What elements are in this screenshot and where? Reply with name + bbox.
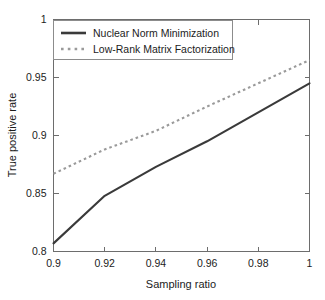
legend-label-nuclear-norm-minimization: Nuclear Norm Minimization <box>93 27 219 39</box>
y-tick-label: 1 <box>41 13 47 25</box>
plot-canvas: 0.80.850.90.951 0.90.920.940.960.981 Nuc… <box>0 0 325 300</box>
series-line-nuclear-norm-minimization <box>54 83 310 243</box>
x-tick-label: 0.96 <box>197 257 218 269</box>
x-tick-label: 0.9 <box>46 257 61 269</box>
y-tick-label: 0.9 <box>32 129 47 141</box>
x-axis-tick-labels: 0.90.920.940.960.981 <box>46 257 312 269</box>
y-tick-label: 0.8 <box>32 245 47 257</box>
legend-label-low-rank-matrix-factorization: Low-Rank Matrix Factorization <box>93 43 235 55</box>
legend[interactable]: Nuclear Norm Minimization Low-Rank Matri… <box>54 21 235 60</box>
y-axis-tick-labels: 0.80.850.90.951 <box>26 13 47 257</box>
x-tick-label: 0.98 <box>248 257 269 269</box>
y-axis-title: True positive rate <box>6 93 18 178</box>
x-tick-label: 0.94 <box>146 257 167 269</box>
y-tick-label: 0.85 <box>26 187 47 199</box>
series-line-low-rank-matrix-factorization <box>54 60 310 174</box>
x-tick-label: 0.92 <box>94 257 115 269</box>
y-tick-label: 0.95 <box>26 71 47 83</box>
chart-figure: 0.80.850.90.951 0.90.920.940.960.981 Nuc… <box>0 0 325 300</box>
x-tick-label: 1 <box>307 257 313 269</box>
x-axis-title: Sampling ratio <box>146 278 216 290</box>
